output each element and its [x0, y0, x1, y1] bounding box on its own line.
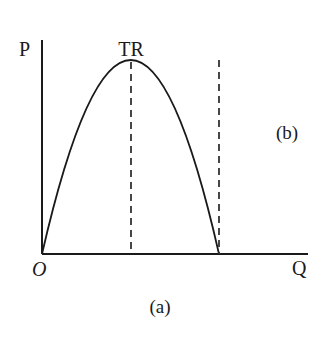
panel-label-b: (b) — [276, 122, 298, 144]
caption-a: (a) — [149, 296, 170, 318]
tr-curve-label: TR — [118, 38, 144, 60]
x-axis-label: Q — [292, 257, 307, 279]
origin-label: O — [32, 258, 46, 280]
y-axis-label: P — [19, 38, 30, 60]
tr-diagram: P Q O TR (b) (a) — [0, 0, 330, 337]
